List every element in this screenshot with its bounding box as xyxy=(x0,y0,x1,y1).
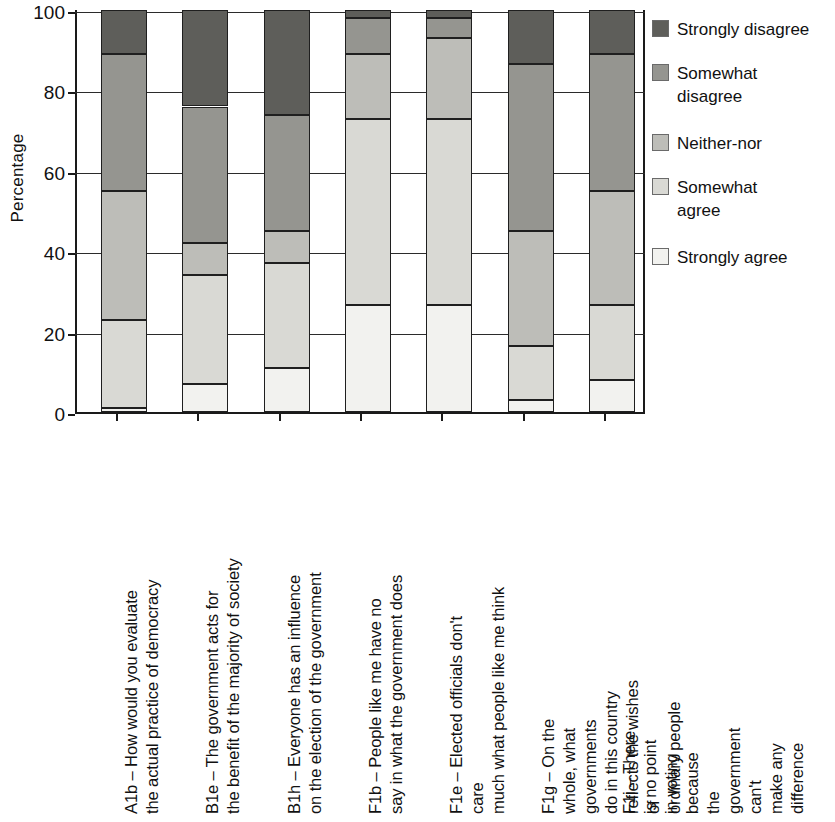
bar-segment xyxy=(264,368,310,412)
y-tick-mark xyxy=(68,334,75,336)
plot-right-border xyxy=(643,10,645,414)
bar-segment xyxy=(426,10,472,18)
x-axis-label: B1e – The government acts for the benefi… xyxy=(202,558,244,814)
x-axis-labels: A1b – How would you evaluate the actual … xyxy=(75,424,675,822)
bar-segment xyxy=(345,305,391,412)
y-tick-label: 40 xyxy=(44,244,65,263)
bar-segment xyxy=(264,231,310,263)
bar-segment xyxy=(508,231,554,346)
x-axis-label: A1b – How would you evaluate the actual … xyxy=(121,580,163,814)
bar-segment xyxy=(182,107,228,244)
y-axis-title: Percentage xyxy=(8,98,28,258)
y-tick-mark xyxy=(68,12,75,14)
bar-segment xyxy=(426,18,472,38)
bar-segment xyxy=(101,408,147,412)
bar-segment xyxy=(589,380,635,412)
bar-segment xyxy=(345,54,391,118)
bar-segment xyxy=(589,191,635,306)
bar-segment xyxy=(182,275,228,384)
bar-segment xyxy=(345,18,391,54)
legend-swatch-icon xyxy=(652,20,669,37)
y-tick-mark xyxy=(68,92,75,94)
bar-column xyxy=(589,10,635,412)
legend-swatch-icon xyxy=(652,134,669,151)
y-tick-label: 80 xyxy=(44,83,65,102)
x-tick-mark xyxy=(523,412,525,421)
y-axis-line xyxy=(75,10,77,414)
legend-item[interactable]: Strongly disagree xyxy=(652,18,809,41)
x-tick-mark xyxy=(116,412,118,421)
y-tick-mark xyxy=(68,253,75,255)
y-tick-label: 100 xyxy=(33,3,65,22)
bar-segment xyxy=(264,263,310,368)
legend-item[interactable]: Somewhat agree xyxy=(652,176,757,222)
bar-segment xyxy=(508,64,554,231)
bar-segment xyxy=(589,10,635,54)
bar-column xyxy=(426,10,472,412)
bar-column xyxy=(264,10,310,412)
legend-swatch-icon xyxy=(652,248,669,265)
bar-column xyxy=(508,10,554,412)
y-tick-label: 20 xyxy=(44,324,65,343)
bar-segment xyxy=(508,346,554,400)
legend-label: Strongly disagree xyxy=(677,18,809,41)
bar-segment xyxy=(101,320,147,408)
bar-segment xyxy=(101,54,147,191)
bar-segment xyxy=(345,119,391,306)
legend-label: Somewhat agree xyxy=(677,176,757,222)
x-tick-mark xyxy=(604,412,606,421)
bar-segment xyxy=(426,119,472,306)
legend-label: Strongly agree xyxy=(677,246,788,269)
x-tick-mark xyxy=(360,412,362,421)
bar-column xyxy=(345,10,391,412)
legend-item[interactable]: Strongly agree xyxy=(652,246,788,269)
legend-item[interactable]: Somewhat disagree xyxy=(652,62,757,108)
legend-label: Somewhat disagree xyxy=(677,62,757,108)
legend-label: Neither-nor xyxy=(677,132,762,155)
bar-segment xyxy=(589,54,635,191)
y-tick-mark xyxy=(68,414,75,416)
bar-segment xyxy=(508,10,554,64)
x-axis-label: F1b – People like me have no say in what… xyxy=(365,575,407,814)
bar-segment xyxy=(264,10,310,115)
bar-column xyxy=(182,10,228,412)
bar-segment xyxy=(182,10,228,106)
bar-segment xyxy=(426,38,472,118)
y-tick-mark xyxy=(68,173,75,175)
bar-segment xyxy=(345,10,391,18)
bar-segment xyxy=(182,384,228,412)
bar-segment xyxy=(426,305,472,412)
legend-swatch-icon xyxy=(652,178,669,195)
x-axis-label: B1h – Everyone has an influence on the e… xyxy=(284,572,326,814)
plot-area: 020406080100 xyxy=(75,10,645,414)
y-tick-label: 0 xyxy=(54,405,65,424)
x-tick-mark xyxy=(197,412,199,421)
bar-segment xyxy=(508,400,554,412)
bar-segment xyxy=(101,10,147,54)
bar-segment xyxy=(264,115,310,232)
bar-segment xyxy=(589,305,635,379)
x-axis-label: F1e – Elected officials don't care much … xyxy=(446,585,509,814)
legend-swatch-icon xyxy=(652,64,669,81)
x-tick-mark xyxy=(279,412,281,421)
legend-item[interactable]: Neither-nor xyxy=(652,132,762,155)
x-tick-mark xyxy=(441,412,443,421)
bar-column xyxy=(101,10,147,412)
y-tick-label: 60 xyxy=(44,163,65,182)
x-axis-label: F1i – There is no point in voting becaus… xyxy=(619,728,808,814)
bar-segment xyxy=(182,243,228,275)
stacked-bar-chart: Percentage 020406080100 Strongly disagre… xyxy=(0,0,835,822)
bar-segment xyxy=(101,191,147,320)
